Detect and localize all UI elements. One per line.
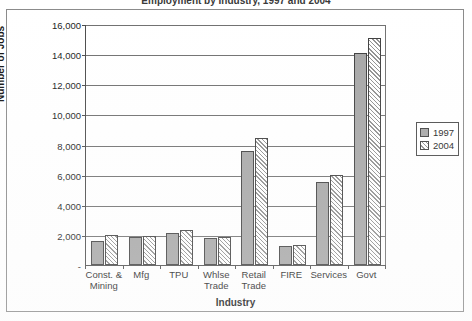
x-axis-label: Govt — [348, 269, 386, 280]
x-axis-label-line: Trade — [235, 280, 273, 291]
x-tick-mark — [85, 265, 86, 269]
bar-group — [311, 25, 349, 265]
bar-2004-govt — [368, 38, 381, 265]
x-axis-label: Mfg — [123, 269, 161, 280]
x-axis-label-line: Whlse — [198, 269, 236, 280]
bar-1997-const-mining — [91, 241, 104, 265]
y-axis-ticks: 16,00014,00012,00010,0008,0006,0004,0002… — [15, 25, 81, 266]
bar-1997-govt — [354, 53, 367, 265]
x-axis-labels: Const. &MiningMfgTPUWhlseTradeRetailTrad… — [85, 269, 386, 299]
x-tick-mark — [385, 265, 386, 269]
y-tick-label: 16,000 — [19, 20, 81, 31]
bar-2004-fire — [293, 245, 306, 265]
bar-group — [161, 25, 199, 265]
bar-1997-tpu — [166, 233, 179, 265]
x-axis-title: Industry — [85, 297, 386, 308]
chart-frame: Number of Jobs 16,00014,00012,00010,0008… — [6, 9, 464, 312]
y-tick-label: 2,000 — [19, 230, 81, 241]
legend-item-2004: 2004 — [420, 139, 454, 152]
x-axis-label-line: Trade — [198, 280, 236, 291]
y-tick-label: 12,000 — [19, 80, 81, 91]
legend-swatch-1997 — [420, 128, 429, 137]
x-axis-label: FIRE — [273, 269, 311, 280]
legend-item-1997: 1997 — [420, 126, 454, 139]
bar-1997-retail-trade — [241, 151, 254, 265]
bar-2004-services — [330, 175, 343, 265]
x-axis-label-line: Retail — [235, 269, 273, 280]
x-axis-label-line: Mfg — [123, 269, 161, 280]
x-axis-label-line: Mining — [85, 280, 123, 291]
bar-2004-retail-trade — [255, 138, 268, 265]
chart-title: Employment by Industry, 1997 and 2004 — [0, 0, 472, 6]
bar-2004-const-mining — [105, 235, 118, 265]
x-axis-label-line: Const. & — [85, 269, 123, 280]
x-axis-label-line: Services — [310, 269, 348, 280]
chart-title-strip: Employment by Industry, 1997 and 2004 — [0, 0, 472, 9]
bar-group — [199, 25, 237, 265]
bar-2004-whlse-trade — [218, 237, 231, 265]
y-tick-label: 4,000 — [19, 200, 81, 211]
bar-series-container — [86, 25, 385, 265]
bar-group — [349, 25, 387, 265]
x-axis-label: TPU — [160, 269, 198, 280]
legend-label: 1997 — [433, 127, 454, 138]
bar-2004-mfg — [143, 236, 156, 265]
x-axis-label: Const. &Mining — [85, 269, 123, 291]
x-axis-label-line: FIRE — [273, 269, 311, 280]
bar-group — [86, 25, 124, 265]
bar-1997-whlse-trade — [204, 238, 217, 265]
x-axis-label: WhlseTrade — [198, 269, 236, 291]
bar-group — [236, 25, 274, 265]
bar-1997-services — [316, 182, 329, 265]
y-tick-label: 14,000 — [19, 50, 81, 61]
y-tick-label: 10,000 — [19, 110, 81, 121]
y-axis-title: Number of Jobs — [0, 26, 6, 102]
bar-group — [124, 25, 162, 265]
bar-1997-mfg — [129, 237, 142, 265]
bar-1997-fire — [279, 246, 292, 265]
bar-group — [274, 25, 312, 265]
legend-label: 2004 — [433, 140, 454, 151]
x-axis-label: Services — [310, 269, 348, 280]
y-tick-label: 6,000 — [19, 170, 81, 181]
chart-legend: 19972004 — [416, 122, 459, 156]
legend-swatch-2004 — [420, 141, 429, 150]
y-tick-label: - — [19, 261, 81, 272]
x-axis-label: RetailTrade — [235, 269, 273, 291]
y-tick-label: 8,000 — [19, 140, 81, 151]
x-axis-label-line: Govt — [348, 269, 386, 280]
bar-2004-tpu — [180, 230, 193, 265]
x-axis-label-line: TPU — [160, 269, 198, 280]
